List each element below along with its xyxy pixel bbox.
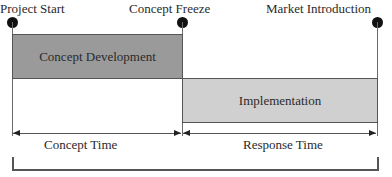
concept-time-arrow [13,133,181,134]
phase-label: Implementation [239,93,321,109]
arrowhead-left-icon [183,130,190,136]
milestone-label-project-start: Project Start [0,1,65,16]
phase-concept-development: Concept Development [12,34,183,79]
arrowhead-left-icon [13,130,20,136]
phase-label: Concept Development [39,49,156,65]
duration-label-response-time: Response Time [243,137,323,152]
arrowhead-right-icon [369,130,376,136]
phase-implementation: Implementation [182,78,378,123]
response-time-arrow [183,133,376,134]
milestone-label-market-introduction: Market Introduction [266,1,371,16]
total-time-bracket [12,157,379,171]
duration-label-concept-time: Concept Time [44,137,117,152]
milestone-label-concept-freeze: Concept Freeze [129,1,210,16]
arrowhead-right-icon [174,130,181,136]
